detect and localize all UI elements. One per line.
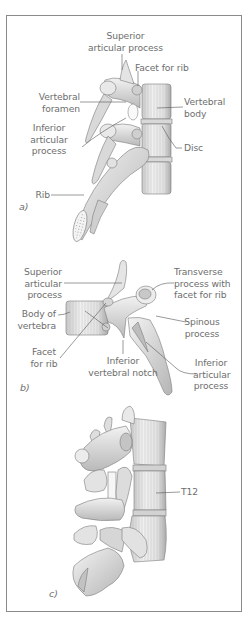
- label-line: process with: [174, 278, 231, 290]
- label-line: process: [193, 380, 229, 392]
- label-line: articular: [24, 134, 74, 146]
- label-line: Inferior: [24, 122, 74, 134]
- label-b-superior-articular-process: Superior articular process: [14, 266, 62, 301]
- panel-b-id: b): [20, 382, 30, 393]
- label-line: for rib: [28, 358, 60, 370]
- label-line: foramen: [30, 103, 80, 115]
- label-line: Inferior: [88, 355, 158, 367]
- panel-c-id: c): [49, 588, 58, 599]
- label-b-transverse-process: Transverse process with facet for rib: [174, 266, 231, 301]
- label-line: articular: [193, 369, 229, 381]
- label-line: process: [182, 328, 222, 340]
- label-line: Vertebral: [184, 96, 225, 108]
- label-line: Rib: [28, 189, 50, 201]
- label-b-facet-for-rib: Facet for rib: [28, 346, 60, 369]
- label-line: Facet for rib: [135, 62, 189, 74]
- label-line: facet for rib: [174, 289, 231, 301]
- label-line: Vertebral: [30, 91, 80, 103]
- label-a-inferior-articular-process: Inferior articular process: [24, 122, 74, 157]
- label-a-rib: Rib: [28, 189, 50, 201]
- label-line: vertebra: [14, 320, 56, 332]
- label-line: Facet: [28, 346, 60, 358]
- label-a-vertebral-foramen: Vertebral foramen: [30, 91, 80, 114]
- label-a-vertebral-body: Vertebral body: [184, 96, 225, 119]
- label-line: Superior: [14, 266, 62, 278]
- label-b-spinous-process: Spinous process: [182, 316, 222, 339]
- label-line: Disc: [184, 142, 203, 154]
- label-line: vertebral notch: [88, 367, 158, 379]
- label-line: articular: [14, 278, 62, 290]
- panel-a-id: a): [19, 201, 29, 212]
- label-line: process: [14, 289, 62, 301]
- label-a-facet-for-rib: Facet for rib: [135, 62, 189, 74]
- label-b-inferior-vertebral-notch: Inferior vertebral notch: [88, 355, 158, 378]
- label-line: articular process: [88, 42, 163, 54]
- label-line: Body of: [14, 308, 56, 320]
- panel-a-illustration: [70, 60, 172, 243]
- label-line: T12: [181, 486, 198, 498]
- label-line: process: [24, 145, 74, 157]
- label-b-inferior-articular-process: Inferior articular process: [193, 357, 229, 392]
- label-line: Superior: [88, 30, 163, 42]
- label-b-body-of-vertebra: Body of vertebra: [14, 308, 56, 331]
- panel-c-illustration: [73, 406, 166, 596]
- label-line: Spinous: [182, 316, 222, 328]
- label-line: body: [184, 108, 225, 120]
- label-c-t12: T12: [181, 486, 198, 498]
- label-a-disc: Disc: [184, 142, 203, 154]
- label-line: Transverse: [174, 266, 231, 278]
- label-line: Inferior: [193, 357, 229, 369]
- label-a-superior-articular-process: Superior articular process: [88, 30, 163, 53]
